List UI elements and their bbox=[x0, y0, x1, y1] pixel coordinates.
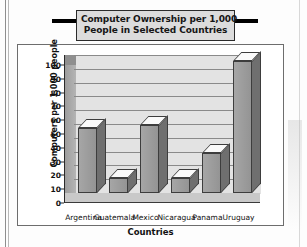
gridline bbox=[74, 110, 260, 111]
chart-frame: Computers per 1,000 people 0102030405060… bbox=[17, 44, 284, 226]
plot-floor-edge bbox=[64, 202, 260, 203]
y-tick-mark bbox=[60, 134, 64, 135]
y-tick-mark bbox=[60, 189, 64, 190]
bar-side bbox=[159, 116, 168, 193]
bar-mexico bbox=[140, 125, 159, 193]
x-tick-label: Panama bbox=[192, 213, 222, 222]
chart-page: Computer Ownership per 1,000 People in S… bbox=[0, 0, 307, 247]
y-axis-line bbox=[64, 55, 65, 203]
y-tick-mark bbox=[60, 175, 64, 176]
x-axis-labels: ArgentinaGuatemalaMexicoNicaraguaPanamaU… bbox=[64, 213, 270, 225]
x-tick-label: Mexico bbox=[132, 213, 158, 222]
x-tick-label: Nicaragua bbox=[157, 213, 195, 222]
x-tick-label: Guatemala bbox=[94, 213, 135, 222]
bar-nicaragua bbox=[171, 178, 190, 193]
bar-face bbox=[140, 125, 159, 193]
y-tick-mark bbox=[60, 161, 64, 162]
bar-face bbox=[202, 153, 221, 193]
bar-face bbox=[171, 178, 190, 193]
y-tick-mark bbox=[60, 106, 64, 107]
bar-face bbox=[109, 178, 128, 193]
y-tick-label: 100 bbox=[45, 61, 61, 70]
bar-panama bbox=[202, 153, 221, 193]
y-tick-mark bbox=[60, 120, 64, 121]
bar-uruguay bbox=[233, 61, 252, 193]
page-gutter-line-left bbox=[5, 0, 6, 247]
plot-area: 0102030405060708090100 bbox=[64, 55, 260, 203]
y-tick-mark bbox=[60, 65, 64, 66]
x-tick-label: Uruguay bbox=[223, 213, 255, 222]
y-tick-mark bbox=[60, 147, 64, 148]
page-gutter-line-inner bbox=[8, 0, 9, 247]
chart-title: Computer Ownership per 1,000 People in S… bbox=[76, 10, 235, 41]
page-shadow bbox=[288, 120, 302, 230]
bar-argentina bbox=[78, 128, 97, 193]
gridline bbox=[74, 69, 260, 70]
chart-title-line-2: People in Selected Countries bbox=[81, 25, 230, 36]
bar-guatemala bbox=[109, 178, 128, 193]
x-axis-title: Countries bbox=[18, 227, 283, 237]
bar-side bbox=[252, 51, 261, 193]
bar-side bbox=[97, 118, 106, 193]
y-tick-mark bbox=[60, 92, 64, 93]
chart-title-line-1: Computer Ownership per 1,000 bbox=[81, 14, 230, 25]
bar-face bbox=[233, 61, 252, 193]
gridline bbox=[74, 83, 260, 84]
bar-face bbox=[78, 128, 97, 193]
y-tick-mark bbox=[60, 203, 64, 204]
y-tick-mark bbox=[60, 78, 64, 79]
gridline bbox=[74, 96, 260, 97]
gridline bbox=[74, 55, 260, 56]
